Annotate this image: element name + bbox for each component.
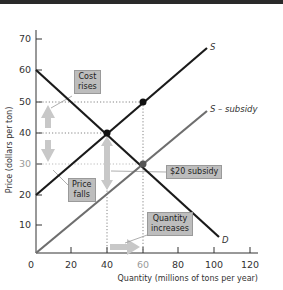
svg-text:30: 30 xyxy=(19,158,31,169)
subsidy-equilibrium-point xyxy=(140,161,147,168)
svg-text:20: 20 xyxy=(19,189,31,200)
svg-text:60: 60 xyxy=(19,64,31,75)
quantity-increases-label: Quantityincreases xyxy=(147,212,193,236)
price-falls-label: Pricefalls xyxy=(68,178,96,202)
svg-text:40: 40 xyxy=(19,127,31,138)
svg-text:0: 0 xyxy=(28,259,34,270)
svg-text:120: 120 xyxy=(241,259,259,270)
y-axis-label: Price (dollars per ton) xyxy=(5,107,14,194)
supply-label: S xyxy=(210,42,216,52)
y-ticks: 70 60 50 40 30 20 10 xyxy=(19,33,42,230)
svg-text:60: 60 xyxy=(137,259,149,270)
price-falls-arrow-icon xyxy=(41,140,55,162)
subsidy-down-arrow-icon xyxy=(101,161,113,190)
demand-label: D xyxy=(222,235,229,245)
equilibrium-point xyxy=(104,130,111,137)
subsidy-chart: Price (dollars per ton) 70 60 50 40 30 2… xyxy=(0,0,283,290)
svg-text:20: 20 xyxy=(65,259,77,270)
cost-rises-arrow-icon xyxy=(41,105,55,128)
svg-text:80: 80 xyxy=(172,259,184,270)
svg-text:100: 100 xyxy=(205,259,223,270)
x-axis-label: Quantity (millions of tons per year) xyxy=(118,274,258,283)
svg-text:50: 50 xyxy=(19,96,31,107)
supply-subsidy-label: S – subsidy xyxy=(210,104,258,114)
svg-text:70: 70 xyxy=(19,33,31,44)
x-ticks: 0 20 40 60 80 100 120 xyxy=(28,247,259,270)
cost-rises-label: Costrises xyxy=(74,70,101,94)
svg-text:10: 10 xyxy=(19,219,31,230)
svg-text:40: 40 xyxy=(101,259,113,270)
subsidy-label: $20 subsidy xyxy=(166,165,222,179)
cost-point xyxy=(140,99,147,106)
